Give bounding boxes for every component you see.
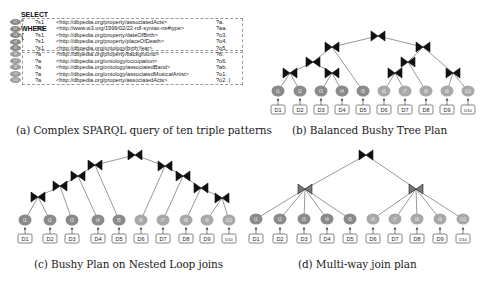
- join-bowtie-icon: [446, 68, 460, 78]
- arrow-head-icon: [394, 227, 397, 230]
- arrow-head-icon: [467, 98, 470, 101]
- caption-b: (b) Balanced Bushy Tree Plan: [292, 124, 447, 136]
- join-bowtie-icon: [359, 150, 373, 160]
- dataset-label: D3: [300, 236, 307, 242]
- arrow-head-icon: [341, 98, 344, 101]
- join-bowtie-icon: [158, 161, 172, 171]
- caption-c: (c) Bushy Plan on Nested Loop joins: [34, 258, 223, 270]
- arrow-head-icon: [140, 227, 143, 230]
- arrow-head-icon: [303, 227, 306, 230]
- join-bowtie-icon: [128, 150, 142, 160]
- join-bowtie-icon: [215, 193, 229, 203]
- dataset-label: D7: [159, 236, 166, 242]
- arrow-head-icon: [362, 98, 365, 101]
- arrow-head-icon: [404, 98, 407, 101]
- triple-node-label: t5: [361, 89, 365, 94]
- arrow-head-icon: [279, 227, 282, 230]
- triple-node-label: t6: [371, 217, 375, 222]
- triple-node-label: t8: [184, 218, 188, 223]
- triple-node-label: t2: [278, 217, 282, 222]
- arrow-head-icon: [320, 98, 323, 101]
- arrow-head-icon: [372, 227, 375, 230]
- edge: [305, 155, 366, 189]
- triple-node-label: t10: [460, 217, 467, 222]
- dataset-label: D10: [225, 237, 233, 242]
- arrow-head-icon: [71, 227, 74, 230]
- join-bowtie-icon: [283, 68, 297, 78]
- dataset-label: D8: [182, 236, 189, 242]
- dataset-label: D5: [346, 236, 353, 242]
- dataset-label: D6: [380, 107, 387, 113]
- triple-node-label: t6: [139, 218, 143, 223]
- triple-node-label: t7: [403, 89, 407, 94]
- dataset-label: D1: [21, 236, 28, 242]
- dataset-label: D2: [276, 236, 283, 242]
- join-bowtie-icon: [371, 31, 385, 41]
- arrow-head-icon: [299, 98, 302, 101]
- triple-node-label: t4: [340, 89, 344, 94]
- dataset-label: D6: [137, 236, 144, 242]
- arrow-head-icon: [49, 227, 52, 230]
- join-bowtie-icon: [401, 57, 415, 67]
- dataset-label: D10: [464, 108, 472, 113]
- arrow-head-icon: [462, 227, 465, 230]
- dataset-label: D2: [296, 107, 303, 113]
- edge: [332, 47, 363, 91]
- arrow-head-icon: [349, 227, 352, 230]
- dataset-label: D5: [359, 107, 366, 113]
- arrow-head-icon: [97, 227, 100, 230]
- arrow-head-icon: [425, 98, 428, 101]
- join-bowtie-icon: [31, 192, 45, 202]
- arrow-head-icon: [162, 227, 165, 230]
- join-bowtie-icon: [176, 171, 190, 181]
- triple-node-label: t5: [348, 217, 352, 222]
- triple-node-label: t8: [415, 217, 419, 222]
- arrow-head-icon: [228, 227, 231, 230]
- edge: [423, 47, 453, 73]
- edge: [141, 166, 165, 220]
- arrow-head-icon: [255, 227, 258, 230]
- dataset-label: D9: [203, 236, 210, 242]
- join-bowtie-icon: [416, 42, 430, 52]
- panel-b-balanced-bushy-tree: t1D1t2D2t3D3t4D4t5D5t6D6t7D7t8D8t9D9t10D…: [0, 0, 485, 283]
- edge: [366, 155, 416, 189]
- dataset-label: D4: [338, 107, 345, 113]
- dataset-label: D10: [459, 237, 467, 242]
- arrow-head-icon: [446, 98, 449, 101]
- edge: [408, 47, 423, 62]
- triple-node-label: t1: [254, 217, 258, 222]
- triple-node-label: t1: [276, 89, 280, 94]
- triple-node-label: t9: [438, 217, 442, 222]
- join-bowtie-icon: [194, 183, 208, 193]
- triple-node-label: t2: [298, 89, 302, 94]
- dataset-label: D7: [401, 107, 408, 113]
- arrow-head-icon: [416, 227, 419, 230]
- join-bowtie-icon: [325, 42, 339, 52]
- arrow-head-icon: [24, 227, 27, 230]
- dataset-label: D3: [68, 236, 75, 242]
- join-bowtie-icon: [325, 68, 339, 78]
- dataset-label: D9: [443, 107, 450, 113]
- caption-d: (d) Multi-way join plan: [298, 258, 417, 270]
- arrow-head-icon: [439, 227, 442, 230]
- triple-node-label: t9: [445, 89, 449, 94]
- triple-node-label: t3: [319, 89, 323, 94]
- triple-node-label: t2: [48, 218, 52, 223]
- dataset-label: D4: [94, 236, 101, 242]
- dataset-label: D8: [413, 236, 420, 242]
- arrow-head-icon: [277, 98, 280, 101]
- edge: [78, 176, 98, 220]
- dataset-label: D9: [436, 236, 443, 242]
- triple-node-label: t1: [23, 218, 27, 223]
- triple-node-label: t3: [302, 217, 306, 222]
- triple-node-label: t6: [382, 89, 386, 94]
- triple-node-label: t9: [205, 218, 209, 223]
- dataset-label: D1: [252, 236, 259, 242]
- dataset-label: D1: [274, 107, 281, 113]
- triple-node-label: t8: [424, 89, 428, 94]
- join-bowtie-icon: [306, 57, 320, 67]
- triple-node-label: t3: [70, 218, 74, 223]
- dataset-label: D6: [369, 236, 376, 242]
- triple-node-label: t4: [96, 218, 100, 223]
- arrow-head-icon: [383, 98, 386, 101]
